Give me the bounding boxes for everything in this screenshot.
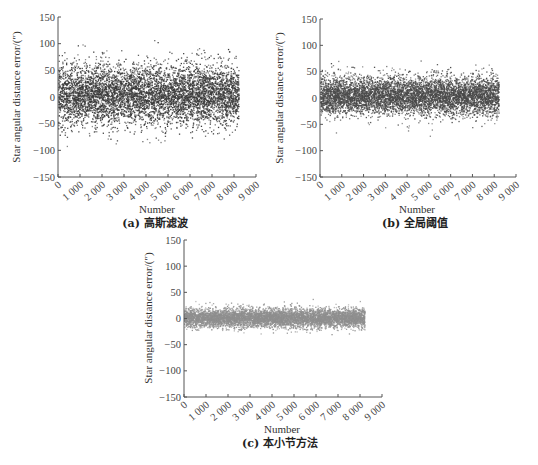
x-tick-label: 7 000: [318, 399, 343, 423]
x-tick-label: 3 000: [230, 399, 255, 423]
x-tick-label: 8 000: [340, 399, 365, 423]
chart-panel-c: 150100500−50−100−15001 0002 0003 0004 00…: [0, 0, 538, 465]
points-layer: [184, 299, 366, 336]
y-tick-label: −100: [159, 365, 181, 376]
y-tick-label: −50: [165, 339, 181, 350]
x-tick-label: 0: [178, 399, 189, 411]
x-tick-label: 1 000: [186, 399, 211, 423]
x-tick-label: 6 000: [296, 399, 321, 423]
x-tick-label: 4 000: [252, 399, 277, 423]
scatter-plot-c: 150100500−50−100−15001 0002 0003 0004 00…: [0, 0, 538, 465]
x-tick-label: 2 000: [208, 399, 233, 423]
x-axis-title: Number: [264, 423, 300, 435]
y-tick-label: −150: [159, 392, 181, 403]
axes-layer: 150100500−50−100−15001 0002 0003 0004 00…: [159, 235, 387, 423]
x-tick-label: 5 000: [274, 399, 299, 423]
y-tick-label: 150: [165, 235, 181, 246]
y-tick-label: 0: [176, 313, 181, 324]
y-tick-label: 100: [165, 261, 181, 272]
y-tick-label: 50: [171, 287, 182, 298]
y-axis-title: Star angular distance error/(″): [142, 252, 155, 384]
figure-caption: (c) 本小节方法: [242, 436, 318, 450]
x-tick-label: 9 000: [362, 399, 387, 423]
